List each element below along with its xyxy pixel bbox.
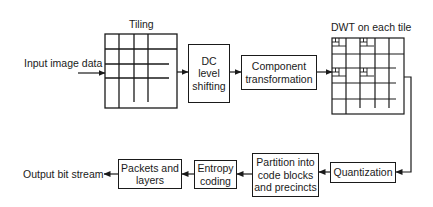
dc-line-2: level — [192, 67, 225, 80]
tiling-grid — [105, 34, 177, 108]
partition-box: Partition into code blocks and precincts — [252, 153, 319, 197]
packets-and-layers-box: Packets and layers — [118, 159, 182, 189]
partition-line-2: code blocks — [254, 169, 316, 182]
dc-line-3: shifting — [192, 80, 225, 93]
quantization-text: Quantization — [334, 166, 393, 179]
dc-level-shifting-box: DC level shifting — [188, 44, 230, 103]
partition-line-1: Partition into — [254, 156, 316, 169]
entropy-coding-box: Entropy coding — [194, 160, 237, 189]
quantization-box: Quantization — [330, 162, 396, 183]
entropy-line-2: coding — [197, 175, 233, 188]
entropy-line-1: Entropy — [197, 162, 233, 175]
dwt-label: DWT on each tile — [331, 21, 411, 33]
dwt-tile-grid — [332, 38, 404, 114]
packets-line-2: layers — [121, 174, 179, 187]
partition-line-3: and precincts — [254, 181, 316, 194]
component-transformation-box: Component transformation — [241, 55, 317, 90]
component-line-2: transformation — [245, 73, 312, 86]
tiling-label: Tiling — [129, 18, 154, 30]
dc-line-1: DC — [192, 55, 225, 68]
packets-line-1: Packets and — [121, 162, 179, 175]
component-line-1: Component — [245, 60, 312, 73]
output-bit-stream-label: Output bit stream — [23, 168, 104, 180]
input-image-data-label: Input image data — [24, 57, 102, 69]
